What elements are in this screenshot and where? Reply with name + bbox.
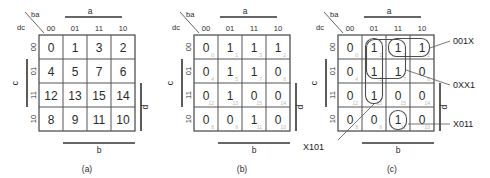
kmap-figure-svg: ba dc a 00 01 11 10 00 01 11 10 c d b <box>0 0 490 178</box>
kmap-b-idx-r0c0: 0 <box>211 52 214 58</box>
kmap-c-cell-r0c1: 1 <box>371 41 378 55</box>
kmap-b-cell-r0c1: 1 <box>227 41 234 55</box>
kmap-b-cell-r0c0: 0 <box>203 41 210 55</box>
kmap-a-cell-r3c0: 8 <box>48 113 55 127</box>
kmap-b: ba dc a 00 01 11 10 00 01 11 10 c d b 0 <box>165 6 305 174</box>
row-header-00-b: 00 <box>184 43 193 51</box>
kmap-b-idx-r1c0: 4 <box>211 76 214 82</box>
col-header-01-c: 01 <box>370 24 378 33</box>
var-label-d-c: d <box>439 104 449 109</box>
kmap-b-cell-r1c2: 1 <box>251 65 258 79</box>
kmap-c-cell-r1c0: 0 <box>347 65 354 79</box>
group-label-x011: X011 <box>453 119 473 129</box>
kmap-b-idx-r3c2: 11 <box>257 124 262 130</box>
kmap-b-cell-r1c1: 1 <box>227 65 234 79</box>
var-label-d: d <box>140 104 150 109</box>
var-label-c-b: c <box>165 80 175 85</box>
row-header-10-b: 10 <box>184 115 193 123</box>
row-header-10-a: 10 <box>29 115 38 123</box>
var-label-a-b: a <box>243 6 248 16</box>
group-label-x101: X101 <box>303 142 324 152</box>
kmap-a-cell-r1c3: 6 <box>120 65 127 79</box>
col-header-01-a: 01 <box>71 24 79 33</box>
corner-label-dc-a: dc <box>17 23 25 32</box>
kmap-a-cell-r3c1: 9 <box>72 113 79 127</box>
corner-label-ba-a: ba <box>31 10 40 19</box>
col-header-00-b: 00 <box>202 24 210 33</box>
leader-line-001x <box>430 41 450 48</box>
var-label-d-b: d <box>295 104 305 109</box>
kmap-b-idx-r2c1: 13 <box>232 100 238 106</box>
var-label-c-c: c <box>309 80 319 85</box>
kmap-c-cell-r1c1: 1 <box>371 65 378 79</box>
var-label-b: b <box>97 145 102 155</box>
kmap-c-idx-r2c3: 14 <box>424 100 430 106</box>
corner-label-dc-b: dc <box>172 23 180 32</box>
kmap-c-cell-r0c0: 0 <box>347 41 354 55</box>
kmap-a-cell-r2c2: 15 <box>92 89 106 103</box>
col-header-11-c: 11 <box>394 24 402 33</box>
kmap-b-idx-r1c1: 5 <box>235 76 238 82</box>
col-header-10-c: 10 <box>418 24 426 33</box>
col-header-10-b: 10 <box>274 24 282 33</box>
col-header-10-a: 10 <box>119 24 127 33</box>
kmap-c: ba dc a 00 01 11 10 00 01 11 10 c d b 0 <box>303 6 475 174</box>
var-label-c: c <box>10 80 20 85</box>
kmap-b-cell-r0c2: 1 <box>251 41 258 55</box>
kmap-c-caption: (c) <box>387 164 397 174</box>
row-header-11-b: 11 <box>184 91 193 99</box>
kmap-c-idx-r2c0: 12 <box>352 100 358 106</box>
kmap-b-idx-r3c0: 8 <box>211 124 214 130</box>
kmap-b-idx-r1c2: 7 <box>259 76 262 82</box>
row-header-01-a: 01 <box>29 67 38 75</box>
kmap-a-cell-r0c0: 0 <box>48 41 55 55</box>
kmap-a-cell-r1c1: 5 <box>72 65 79 79</box>
kmap-a-cell-r1c2: 7 <box>96 65 103 79</box>
corner-label-dc-c: dc <box>316 23 324 32</box>
group-label-0xx1: 0XX1 <box>453 80 475 90</box>
col-header-00-c: 00 <box>346 24 354 33</box>
kmap-a-cell-r2c3: 14 <box>116 89 130 103</box>
kmap-c-idx-r1c2: 7 <box>403 76 406 82</box>
var-label-b-b: b <box>252 145 257 155</box>
col-header-11-a: 11 <box>95 24 103 33</box>
group-label-001x: 001X <box>453 36 474 46</box>
kmap-c-idx-r1c3: 6 <box>427 76 430 82</box>
kmap-c-idx-r3c1: 9 <box>379 124 382 130</box>
kmap-c-idx-r3c0: 8 <box>355 124 358 130</box>
kmap-c-cell-r1c2: 1 <box>395 65 402 79</box>
kmap-b-cell-r1c0: 0 <box>203 65 210 79</box>
kmap-b-cell-r0c3: 1 <box>275 41 282 55</box>
row-header-01-b: 01 <box>184 67 193 75</box>
kmap-b-cell-r3c0: 0 <box>203 113 210 127</box>
kmap-c-idx-r0c1: 1 <box>379 52 382 58</box>
kmap-b-idx-r0c1: 1 <box>235 52 238 58</box>
row-header-10-c: 10 <box>328 115 337 123</box>
kmap-b-idx-r0c2: 3 <box>259 52 262 58</box>
kmap-b-idx-r3c3: 10 <box>280 124 286 130</box>
row-header-00-c: 00 <box>328 43 337 51</box>
kmap-a-cell-r3c2: 11 <box>93 113 106 127</box>
kmap-b-idx-r1c3: 6 <box>283 76 286 82</box>
col-header-11-b: 11 <box>250 24 258 33</box>
kmap-a-cell-r1c0: 4 <box>48 65 55 79</box>
kmap-c-idx-r0c0: 0 <box>355 52 358 58</box>
kmap-a-cell-r2c0: 12 <box>44 89 58 103</box>
kmap-b-idx-r2c0: 12 <box>208 100 214 106</box>
kmap-c-cell-r0c2: 1 <box>395 41 402 55</box>
kmap-c-cell-r1c3: 0 <box>419 65 426 79</box>
kmap-b-idx-r2c3: 14 <box>280 100 286 106</box>
col-header-00-a: 00 <box>47 24 55 33</box>
row-header-11-a: 11 <box>29 91 38 99</box>
kmap-b-idx-r2c2: 15 <box>256 100 262 106</box>
kmap-a-cell-r0c3: 2 <box>120 41 127 55</box>
kmap-c-cell-r3c1: 0 <box>371 113 378 127</box>
var-label-a-c: a <box>387 6 392 16</box>
row-header-00-a: 00 <box>29 43 38 51</box>
kmap-b-idx-r3c1: 9 <box>235 124 238 130</box>
row-header-11-c: 11 <box>328 91 337 99</box>
kmap-b-cell-r1c3: 0 <box>275 65 282 79</box>
kmap-a-cell-r0c2: 3 <box>96 41 103 55</box>
kmap-a-cell-r2c1: 13 <box>68 89 82 103</box>
kmap-b-caption: (b) <box>237 164 248 174</box>
